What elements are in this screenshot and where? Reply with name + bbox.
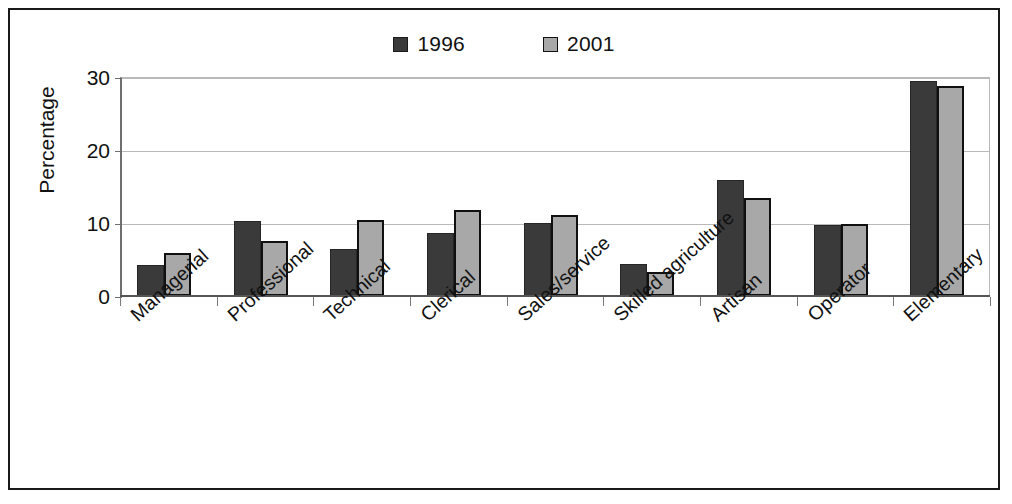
x-axis-tick-mark [313,297,314,306]
bar-group [315,78,412,296]
chart-figure: 1996 2001 Percentage 0102030 ManagerialP… [8,8,1000,490]
x-axis-tick-mark [603,297,604,306]
x-axis-tick-mark [410,297,411,306]
chart-legend: 1996 2001 [10,32,998,56]
y-axis-tick-label: 20 [87,139,110,163]
y-axis-tick-mark [115,224,122,225]
x-axis-tick-mark [120,297,121,306]
x-axis-tick-mark [893,297,894,306]
bar-group [702,78,799,296]
x-axis-tick-mark [217,297,218,306]
light-square-swatch-icon [543,37,558,52]
y-axis-tick-label: 30 [87,66,110,90]
y-axis-tick-label: 10 [87,212,110,236]
bar-1996-elementary[interactable] [910,81,937,296]
legend-label-1996: 1996 [417,32,465,56]
bar-group [412,78,509,296]
y-axis-tick-mark [115,151,122,152]
x-axis-tick-mark [990,297,991,306]
legend-item-2001[interactable]: 2001 [543,32,615,56]
x-axis-tick-mark [507,297,508,306]
y-axis-tick-mark [115,78,122,79]
bar-group [799,78,896,296]
legend-item-1996[interactable]: 1996 [393,32,465,56]
legend-label-2001: 2001 [567,32,615,56]
x-axis-tick-mark [700,297,701,306]
dark-square-swatch-icon [393,37,408,52]
x-axis-tick-mark [797,297,798,306]
y-axis-tick-label: 0 [98,285,110,309]
y-axis-title: Percentage [35,40,59,240]
